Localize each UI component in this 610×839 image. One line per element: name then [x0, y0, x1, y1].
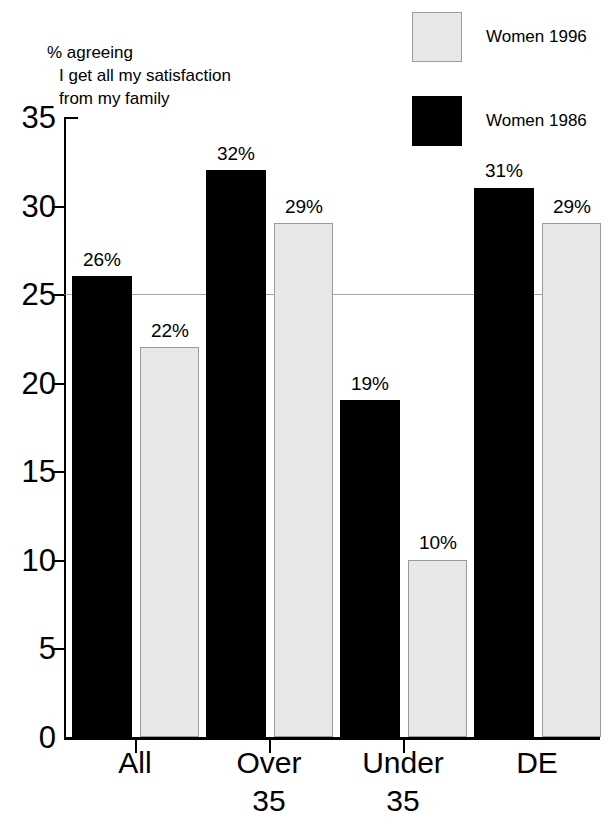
- chart-title-line-2: I get all my satisfaction: [59, 64, 231, 87]
- bar-all-women-1996: [140, 347, 199, 737]
- y-tick-label-30: 30: [0, 190, 56, 221]
- y-tick-label-15: 15: [0, 456, 56, 487]
- x-category-under-35-line-1: Under: [362, 746, 444, 779]
- y-tick-label-35: 35: [0, 102, 56, 133]
- legend-swatch-icon-gray: [412, 12, 462, 62]
- plot-area: 26% 22% 32% 29% 19% 10% 31% 29%: [64, 117, 600, 737]
- y-tick-35: [64, 117, 78, 119]
- x-category-over-35-line-1: Over: [236, 746, 301, 779]
- bar-over35-women-1986: [206, 170, 266, 737]
- bar-label-over35-women-1986: 32%: [198, 144, 274, 163]
- bar-label-over35-women-1996: 29%: [266, 197, 342, 216]
- y-tick-10: [52, 560, 64, 562]
- y-tick-5: [52, 648, 64, 650]
- x-category-over-35: Over 35: [202, 744, 336, 820]
- y-tick-label-25: 25: [0, 279, 56, 310]
- bar-de-women-1986: [474, 188, 534, 737]
- bar-label-de-women-1986: 31%: [466, 161, 542, 180]
- bar-under35-women-1996: [408, 560, 467, 737]
- bar-all-women-1986: [72, 276, 132, 737]
- x-category-over-35-line-2: 35: [202, 782, 336, 820]
- bar-label-under35-women-1986: 19%: [332, 374, 408, 393]
- y-tick-label-20: 20: [0, 367, 56, 398]
- y-tick-30: [52, 206, 64, 208]
- y-tick-label-10: 10: [0, 544, 56, 575]
- y-tick-label-0: 0: [0, 722, 56, 753]
- x-category-de: DE: [470, 744, 604, 782]
- bar-label-all-women-1996: 22%: [132, 321, 208, 340]
- bar-label-under35-women-1996: 10%: [400, 533, 476, 552]
- bar-de-women-1996: [542, 223, 601, 737]
- y-axis-line: [64, 117, 66, 737]
- bar-under35-women-1986: [340, 400, 400, 737]
- x-axis-line: [64, 737, 600, 740]
- y-tick-20: [52, 383, 64, 385]
- y-axis-labels: 35 30 25 20 15 10 5 0: [0, 117, 56, 737]
- legend-item-women-1996: Women 1996: [412, 12, 587, 62]
- bar-label-de-women-1996: 29%: [534, 197, 610, 216]
- legend-label-women-1996: Women 1996: [486, 27, 587, 47]
- bar-label-all-women-1986: 26%: [64, 250, 140, 269]
- y-tick-15: [52, 471, 64, 473]
- x-category-under-35-line-2: 35: [336, 782, 470, 820]
- x-axis-category-labels: All Over 35 Under 35 DE: [64, 744, 600, 839]
- bar-over35-women-1996: [274, 223, 333, 737]
- x-category-de-line-1: DE: [516, 746, 558, 779]
- x-category-under-35: Under 35: [336, 744, 470, 820]
- y-tick-label-5: 5: [0, 633, 56, 664]
- chart-title: % agreeing I get all my satisfaction fro…: [47, 41, 231, 110]
- y-tick-25: [52, 294, 64, 296]
- x-category-all-line-1: All: [118, 746, 151, 779]
- chart-title-line-1: % agreeing: [47, 41, 231, 64]
- x-category-all: All: [68, 744, 202, 782]
- chart-title-line-3: from my family: [59, 87, 231, 110]
- bar-chart: % agreeing I get all my satisfaction fro…: [0, 0, 610, 839]
